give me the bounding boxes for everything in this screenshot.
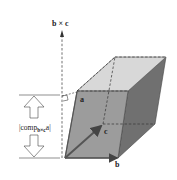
vector-b-label: b — [115, 160, 120, 169]
vector-c-label: c — [104, 127, 108, 136]
normal-vector-label: b × c — [52, 19, 69, 28]
normal-vector-arrowhead — [60, 30, 64, 37]
front-face — [65, 91, 128, 158]
parallelepiped-diagram: b × c a c b |compb×ca| — [0, 0, 177, 180]
height-label: |compb×ca| — [19, 123, 51, 133]
vector-a-label: a — [80, 95, 84, 104]
